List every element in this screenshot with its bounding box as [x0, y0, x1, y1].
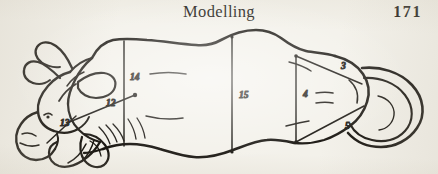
book-page: Modelling 171: [0, 0, 438, 174]
page-number: 171: [393, 3, 422, 21]
body-top-outline: [92, 30, 335, 58]
measurement-label-14: 14: [130, 72, 140, 82]
foreleg-and-brisket: [49, 58, 124, 167]
measurement-label-4: 4: [302, 89, 308, 99]
figure-bovine-measurement-diagram: 14 15 12 13 3 4 5: [0, 22, 438, 174]
horns: [24, 42, 72, 84]
measurement-label-12: 12: [106, 98, 116, 108]
hindquarter-outline: [295, 56, 369, 143]
measurement-label-5: 5: [345, 121, 350, 131]
measurement-label-13: 13: [60, 118, 70, 128]
measurement-label-3: 3: [340, 61, 346, 71]
page-title: Modelling: [0, 2, 438, 22]
measurement-label-15: 15: [239, 90, 249, 100]
body-bottom-outline: [84, 140, 295, 157]
body-contour-hints: [128, 62, 333, 139]
tail: [348, 68, 423, 147]
